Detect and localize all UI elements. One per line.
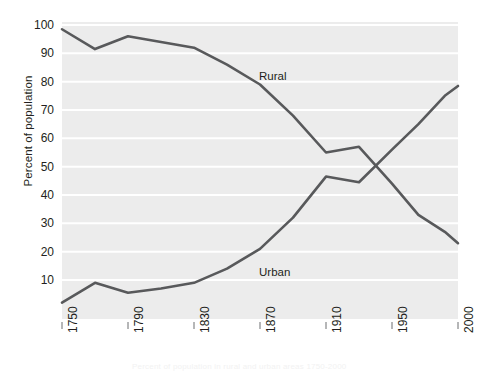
figure-caption: Percent of population in rural and urban… <box>132 362 346 371</box>
x-axis-tick-label: 1830 <box>199 306 211 333</box>
series-annotation-urban: Urban <box>259 266 290 278</box>
y-axis-tick-label: 20 <box>26 246 54 258</box>
series-annotation-rural: Rural <box>259 70 286 82</box>
y-axis-tick-label: 10 <box>26 274 54 286</box>
x-axis-tick-label: 1790 <box>133 306 145 333</box>
x-axis-tick-label: 1750 <box>67 306 79 333</box>
x-axis-tick-label: 2000 <box>463 306 475 333</box>
x-axis-tick-label: 1950 <box>397 306 409 333</box>
y-axis-tick-label: 40 <box>26 189 54 201</box>
y-axis-tick-label: 70 <box>26 104 54 116</box>
y-axis-tick-label: 50 <box>26 161 54 173</box>
y-axis-tick-label: 80 <box>26 76 54 88</box>
x-axis-tick-label: 1870 <box>265 306 277 333</box>
x-axis-tick-label: 1910 <box>331 306 343 333</box>
y-axis-tick-label: 100 <box>26 19 54 31</box>
chart-figure: Percent of population 102030405060708090… <box>0 0 480 371</box>
y-axis-tick-label: 60 <box>26 132 54 144</box>
y-axis-tick-label: 30 <box>26 217 54 229</box>
y-axis-tick-label: 90 <box>26 47 54 59</box>
